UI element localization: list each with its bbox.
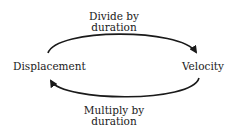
top-edge-label-line2: duration — [0, 22, 228, 33]
bottom-edge-label-line2: duration — [0, 116, 228, 127]
top-edge-label: Divide by duration — [0, 11, 228, 33]
node-displacement: Displacement — [13, 61, 86, 72]
bottom-arrow — [51, 78, 199, 97]
node-velocity: Velocity — [182, 61, 224, 72]
top-arrow — [48, 34, 196, 53]
bottom-edge-label: Multiply by duration — [0, 105, 228, 127]
conversion-diagram: Divide by duration Displacement Velocity… — [0, 0, 228, 138]
